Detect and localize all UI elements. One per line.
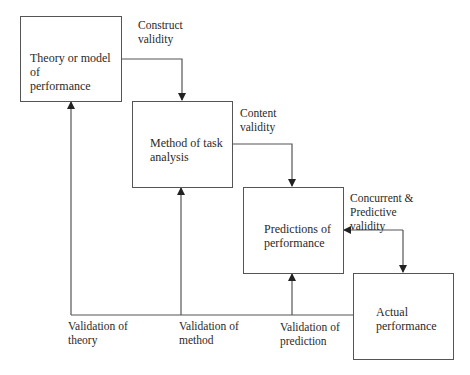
label-validation-method: Validation of method [179, 319, 239, 347]
diagram-canvas: Theory or model of performance Method of… [0, 0, 470, 375]
box-method-label: Method of task analysis [150, 136, 223, 164]
label-validation-prediction: Validation of prediction [280, 320, 340, 348]
box-actual: Actual performance [353, 273, 454, 360]
label-concurrent-validity: Concurrent & Predictive validity [350, 191, 414, 233]
label-validation-theory: Validation of theory [68, 319, 128, 347]
box-theory: Theory or model of performance [20, 16, 122, 102]
label-content-validity: Content validity [240, 106, 276, 134]
arrow-construct [121, 59, 182, 100]
label-construct-validity: Construct validity [138, 18, 183, 46]
box-predictions-label: Predictions of performance [264, 222, 331, 250]
box-predictions: Predictions of performance [243, 187, 344, 274]
box-method: Method of task analysis [132, 101, 233, 188]
box-theory-label: Theory or model of performance [30, 51, 121, 93]
box-actual-label: Actual performance [376, 305, 437, 333]
arrow-content [232, 144, 292, 186]
